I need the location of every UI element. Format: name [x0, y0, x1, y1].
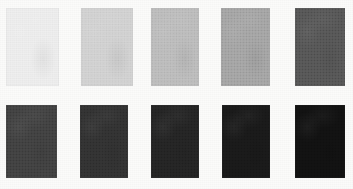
ink-mottle	[81, 8, 133, 86]
ink-mottle	[80, 105, 128, 178]
halftone-texture	[80, 105, 128, 178]
ink-mottle	[295, 105, 345, 178]
patch-edge	[6, 105, 57, 178]
step-wedge-page	[0, 0, 353, 189]
ink-mottle	[222, 105, 270, 178]
ink-mottle	[151, 105, 199, 178]
ink-mottle	[6, 8, 59, 86]
grayscale-step-wedge	[0, 0, 353, 189]
patch-edge	[151, 8, 199, 86]
ink-mottle	[221, 8, 270, 86]
ink-mottle	[6, 105, 57, 178]
gray-patch	[81, 8, 133, 86]
patch-edge	[81, 8, 133, 86]
patch-edge	[80, 105, 128, 178]
halftone-texture	[6, 105, 57, 178]
halftone-texture	[295, 105, 345, 178]
patch-edge	[6, 8, 59, 86]
halftone-texture	[222, 105, 270, 178]
gray-patch	[295, 105, 345, 178]
gray-patch	[151, 105, 199, 178]
gray-patch	[80, 105, 128, 178]
gray-patch	[6, 105, 57, 178]
patch-edge	[222, 105, 270, 178]
patch-edge	[295, 105, 345, 178]
gray-patch	[151, 8, 199, 86]
halftone-texture	[221, 8, 270, 86]
gray-patch	[295, 8, 345, 86]
halftone-texture	[6, 8, 59, 86]
halftone-texture	[295, 8, 345, 86]
gray-patch	[6, 8, 59, 86]
patch-edge	[295, 8, 345, 86]
halftone-texture	[81, 8, 133, 86]
ink-mottle	[151, 8, 199, 86]
halftone-texture	[151, 8, 199, 86]
patch-edge	[151, 105, 199, 178]
ink-mottle	[295, 8, 345, 86]
gray-patch	[221, 8, 270, 86]
gray-patch	[222, 105, 270, 178]
halftone-texture	[151, 105, 199, 178]
patch-edge	[221, 8, 270, 86]
